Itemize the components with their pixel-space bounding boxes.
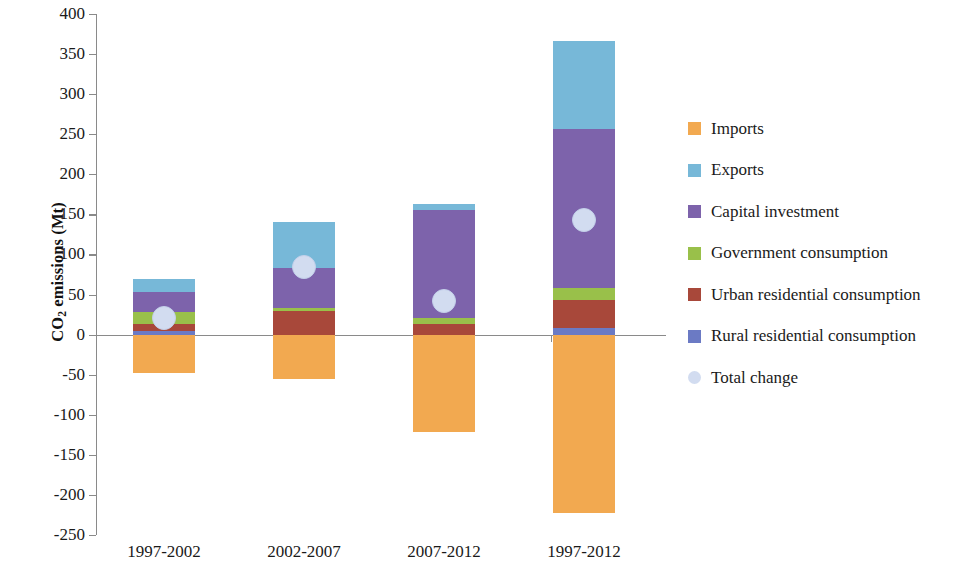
y-axis-title-pre: CO (48, 317, 67, 342)
y-tick-label: 300 (60, 84, 86, 104)
y-tick-mark (89, 14, 96, 15)
total-change-marker[interactable] (572, 208, 596, 232)
bar-segment-exports[interactable] (133, 279, 195, 293)
total-change-marker[interactable] (292, 255, 316, 279)
legend-swatch-square-icon (688, 122, 701, 135)
y-tick-label: 150 (60, 204, 86, 224)
bar-segment-imports[interactable] (133, 335, 195, 373)
legend-item[interactable]: Rural residential consumption (688, 316, 968, 358)
legend-label: Imports (711, 119, 764, 139)
bar-segment-urban-residential-consumption[interactable] (273, 311, 335, 335)
legend-item[interactable]: Capital investment (688, 191, 968, 233)
legend-label: Exports (711, 160, 764, 180)
y-tick-label: 250 (60, 124, 86, 144)
legend-swatch-square-icon (688, 330, 701, 343)
y-tick-label: -200 (54, 485, 85, 505)
bar-group[interactable]: 1997-2012 (553, 14, 615, 535)
y-axis-title-subscript: 2 (56, 311, 68, 317)
y-tick-mark (89, 535, 96, 536)
bar-segment-exports[interactable] (553, 41, 615, 129)
bar-group[interactable]: 2002-2007 (273, 14, 335, 535)
chart-legend: ImportsExportsCapital investmentGovernme… (688, 108, 968, 399)
y-tick-label: -100 (54, 405, 85, 425)
legend-label: Total change (711, 368, 798, 388)
legend-label: Urban residential consumption (711, 285, 921, 305)
legend-item[interactable]: Government consumption (688, 233, 968, 275)
y-tick-mark (89, 495, 96, 496)
y-tick-label: 400 (60, 4, 86, 24)
y-tick-mark (89, 375, 96, 376)
y-tick-mark (89, 415, 96, 416)
total-change-marker[interactable] (152, 306, 176, 330)
bar-segment-urban-residential-consumption[interactable] (553, 300, 615, 328)
y-tick-label: -50 (62, 365, 85, 385)
y-tick-label: 200 (60, 164, 86, 184)
y-tick-label: 50 (68, 285, 85, 305)
bar-segment-exports[interactable] (413, 204, 475, 210)
bar-segment-rural-residential-consumption[interactable] (553, 328, 615, 334)
bar-segment-government-consumption[interactable] (413, 318, 475, 324)
legend-swatch-square-icon (688, 164, 701, 177)
y-tick-label: 350 (60, 44, 86, 64)
bar-series-container: 1997-20022002-20072007-20121997-2012 (96, 14, 656, 535)
legend-label: Government consumption (711, 243, 888, 263)
y-tick-label: -150 (54, 445, 85, 465)
legend-swatch-square-icon (688, 205, 701, 218)
co2-emissions-stacked-bar-chart: CO2 emissions (Mt) 400350300250200150100… (0, 0, 972, 580)
y-tick-label: 100 (60, 244, 86, 264)
y-tick-mark (89, 174, 96, 175)
bar-segment-rural-residential-consumption[interactable] (133, 331, 195, 335)
bar-group[interactable]: 2007-2012 (413, 14, 475, 535)
bar-segment-government-consumption[interactable] (553, 288, 615, 300)
y-tick-mark (89, 94, 96, 95)
legend-item[interactable]: Exports (688, 150, 968, 192)
bar-segment-government-consumption[interactable] (273, 308, 335, 310)
legend-label: Rural residential consumption (711, 326, 916, 346)
legend-item[interactable]: Urban residential consumption (688, 274, 968, 316)
bar-segment-urban-residential-consumption[interactable] (413, 324, 475, 334)
legend-swatch-square-icon (688, 247, 701, 260)
legend-swatch-square-icon (688, 288, 701, 301)
bar-group[interactable]: 1997-2002 (133, 14, 195, 535)
bar-segment-imports[interactable] (273, 335, 335, 380)
total-change-marker[interactable] (432, 289, 456, 313)
y-tick-mark (89, 54, 96, 55)
bar-segment-imports[interactable] (413, 335, 475, 432)
y-tick-mark (89, 214, 96, 215)
y-tick-mark (89, 254, 96, 255)
y-tick-label: 0 (77, 325, 86, 345)
x-axis-label: 1997-2012 (494, 542, 674, 562)
legend-label: Capital investment (711, 202, 839, 222)
y-tick-mark (89, 335, 96, 336)
legend-item[interactable]: Total change (688, 357, 968, 399)
legend-swatch-circle-icon (688, 371, 701, 384)
y-tick-mark (89, 295, 96, 296)
y-tick-mark (89, 455, 96, 456)
legend-item[interactable]: Imports (688, 108, 968, 150)
bar-segment-imports[interactable] (553, 335, 615, 513)
plot-area: 400350300250200150100500-50-100-150-200-… (96, 14, 656, 535)
y-tick-mark (89, 134, 96, 135)
